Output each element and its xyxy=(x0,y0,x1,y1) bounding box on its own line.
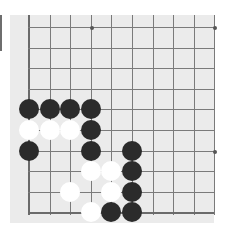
grid-vertical-line xyxy=(214,15,215,215)
grid-horizontal-line xyxy=(28,192,214,193)
white-stone[interactable] xyxy=(81,161,101,181)
star-point xyxy=(213,150,217,154)
black-stone[interactable] xyxy=(122,202,142,222)
black-stone[interactable] xyxy=(81,120,101,140)
side-bar-mark xyxy=(0,15,2,51)
grid-horizontal-line xyxy=(28,151,214,152)
black-stone[interactable] xyxy=(19,141,39,161)
black-stone[interactable] xyxy=(60,99,80,119)
black-stone[interactable] xyxy=(122,161,142,181)
grid-horizontal-line xyxy=(28,68,214,69)
black-stone[interactable] xyxy=(40,99,60,119)
white-stone[interactable] xyxy=(60,120,80,140)
grid-horizontal-line xyxy=(28,171,214,172)
black-stone[interactable] xyxy=(101,202,121,222)
star-point xyxy=(90,26,94,30)
grid-vertical-line xyxy=(153,15,154,215)
white-stone[interactable] xyxy=(101,182,121,202)
white-stone[interactable] xyxy=(40,120,60,140)
white-stone[interactable] xyxy=(81,202,101,222)
white-stone[interactable] xyxy=(101,161,121,181)
grid-horizontal-line xyxy=(28,89,214,90)
star-point xyxy=(213,26,217,30)
grid-vertical-line xyxy=(194,15,195,215)
black-stone[interactable] xyxy=(81,99,101,119)
grid-horizontal-line xyxy=(28,48,214,49)
black-stone[interactable] xyxy=(122,141,142,161)
black-stone[interactable] xyxy=(81,141,101,161)
white-stone[interactable] xyxy=(60,182,80,202)
white-stone[interactable] xyxy=(19,120,39,140)
grid-horizontal-line xyxy=(28,212,214,214)
grid-vertical-line xyxy=(173,15,174,215)
black-stone[interactable] xyxy=(122,182,142,202)
grid-horizontal-line xyxy=(28,27,214,28)
black-stone[interactable] xyxy=(19,99,39,119)
